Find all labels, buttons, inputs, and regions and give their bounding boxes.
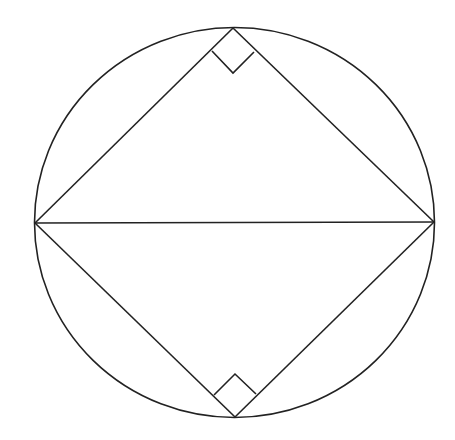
segment-top-right [233,28,434,222]
inscribed-quadrilateral-diagram [0,0,455,440]
segment-bottom-right [235,222,434,417]
segment-left-top [35,28,233,223]
bottom-right-angle-marker [214,374,256,395]
segment-diameter [35,222,434,223]
segment-left-bottom [35,223,235,417]
top-right-angle-marker [212,51,254,73]
